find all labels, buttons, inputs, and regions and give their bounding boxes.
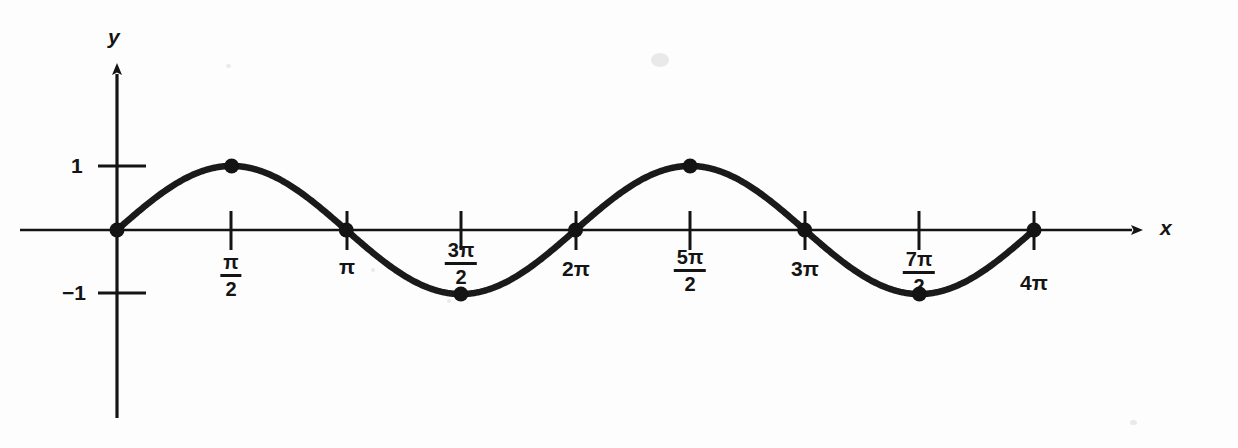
fraction-bar	[445, 262, 477, 265]
curve-point-marker	[683, 159, 698, 174]
fraction-denominator: 2	[445, 266, 477, 287]
fraction-bar	[674, 269, 706, 272]
fraction-numerator: 7π	[903, 249, 935, 270]
y-tick-label-1: 1	[71, 155, 83, 176]
y-axis-label: y	[108, 26, 120, 47]
fraction-denominator: 2	[903, 275, 935, 296]
curve-point-marker	[453, 287, 468, 302]
curve-point-marker	[110, 223, 125, 238]
x-tick-label-pi-over-2: π 2	[220, 252, 241, 299]
x-tick-label-3pi-over-2: 3π 2	[445, 240, 477, 287]
x-tick-label-5pi-over-2: 5π 2	[674, 247, 706, 294]
x-tick-label-3pi: 3π	[791, 258, 819, 279]
y-tick-label-minus-1: −1	[62, 282, 86, 303]
curve-point-marker	[1027, 223, 1042, 238]
x-tick-label-2pi: 2π	[562, 258, 590, 279]
fraction-numerator: π	[220, 252, 241, 273]
fraction-numerator: 3π	[445, 240, 477, 261]
x-tick-label-pi: π	[339, 256, 355, 277]
fraction-numerator: 5π	[674, 247, 706, 268]
fraction-bar	[903, 271, 935, 274]
curve-point-marker	[568, 223, 583, 238]
curve-point-marker	[224, 159, 239, 174]
sine-curve-figure: y x 1 −1 π 2 π 3π 2 2π 5π 2 3π 7π 2 4π	[0, 0, 1238, 448]
x-axis-label: x	[1160, 217, 1172, 238]
x-tick-label-7pi-over-2: 7π 2	[903, 249, 935, 296]
fraction-bar	[220, 274, 241, 277]
x-tick-label-4pi: 4π	[1020, 272, 1048, 293]
fraction-denominator: 2	[220, 278, 241, 299]
fraction-denominator: 2	[674, 273, 706, 294]
curve-point-marker	[339, 223, 354, 238]
curve-point-marker	[797, 223, 812, 238]
plot-canvas	[0, 0, 1238, 448]
